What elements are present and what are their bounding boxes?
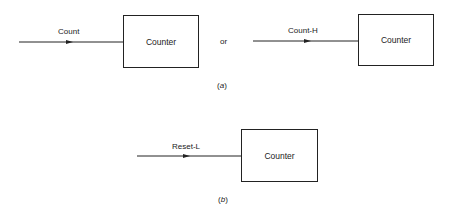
count-signal-label: Count [58, 28, 79, 36]
or-connector-text: or [220, 38, 227, 46]
count-h-signal-label: Count-H [288, 27, 318, 35]
reset-l-signal-label: Reset-L [172, 143, 200, 151]
counter-block-label: Counter [381, 35, 411, 45]
counter-block-a-left: Counter [123, 15, 199, 68]
counter-block-label: Counter [264, 151, 294, 161]
reset-l-arrow-icon [183, 154, 190, 158]
count-h-arrow-icon [304, 39, 311, 43]
caption-a: (a) [217, 81, 227, 90]
counter-block-b: Counter [241, 129, 318, 182]
counter-block-label: Counter [146, 37, 176, 47]
caption-b: (b) [218, 195, 228, 204]
count-arrow-icon [66, 40, 73, 44]
counter-block-a-right: Counter [358, 14, 434, 66]
